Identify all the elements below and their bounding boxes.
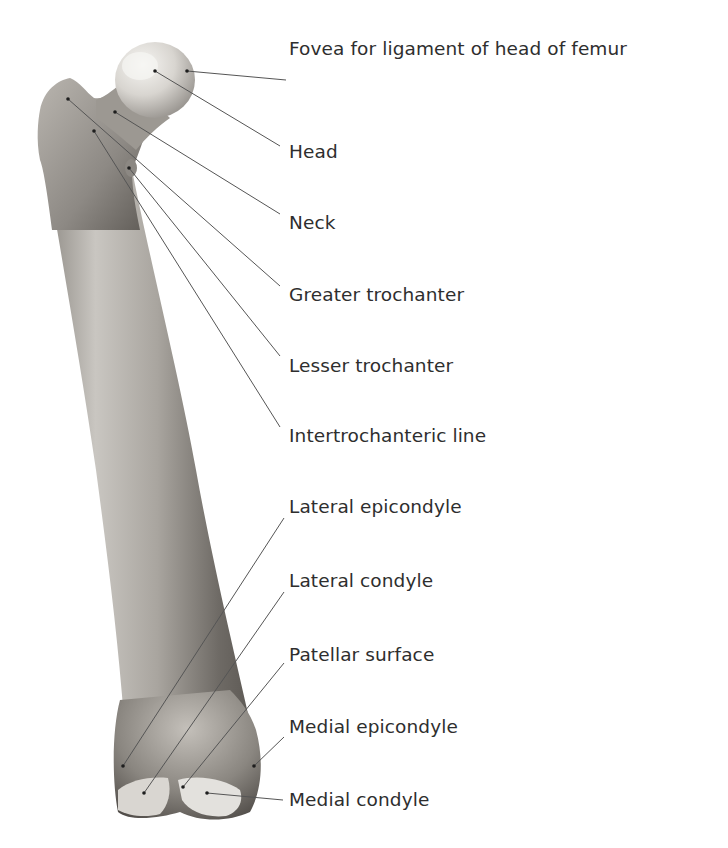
label-head: Head <box>289 141 338 163</box>
label-lesser-trochanter: Lesser trochanter <box>289 355 453 377</box>
dot-patellar-surface <box>181 785 185 789</box>
label-lateral-condyle: Lateral condyle <box>289 570 433 592</box>
femur-diagram: Fovea for ligament of head of femur Head… <box>0 0 728 848</box>
label-fovea: Fovea for ligament of head of femur <box>289 38 627 60</box>
dot-fovea <box>185 69 189 73</box>
dot-neck <box>113 110 117 114</box>
dot-intertrochanteric-line <box>92 129 96 133</box>
dot-lateral-condyle <box>142 791 146 795</box>
head-highlight <box>122 52 158 80</box>
leader-fovea <box>187 71 286 80</box>
femur-head-shape <box>115 42 195 118</box>
label-greater-trochanter: Greater trochanter <box>289 284 464 306</box>
label-medial-epicondyle: Medial epicondyle <box>289 716 458 738</box>
dot-lateral-epicondyle <box>121 764 125 768</box>
leader-neck <box>115 112 280 214</box>
dot-greater-trochanter <box>66 97 70 101</box>
label-lateral-epicondyle: Lateral epicondyle <box>289 496 462 518</box>
label-patellar-surface: Patellar surface <box>289 644 434 666</box>
label-medial-condyle: Medial condyle <box>289 789 429 811</box>
dot-medial-condyle <box>205 791 209 795</box>
lesser-trochanter-shape <box>125 159 137 177</box>
label-neck: Neck <box>289 212 336 234</box>
dot-lesser-trochanter <box>127 166 131 170</box>
femur-shaft <box>44 150 250 722</box>
dot-head <box>153 69 157 73</box>
dot-medial-epicondyle <box>252 764 256 768</box>
label-intertrochanteric-line: Intertrochanteric line <box>289 425 486 447</box>
